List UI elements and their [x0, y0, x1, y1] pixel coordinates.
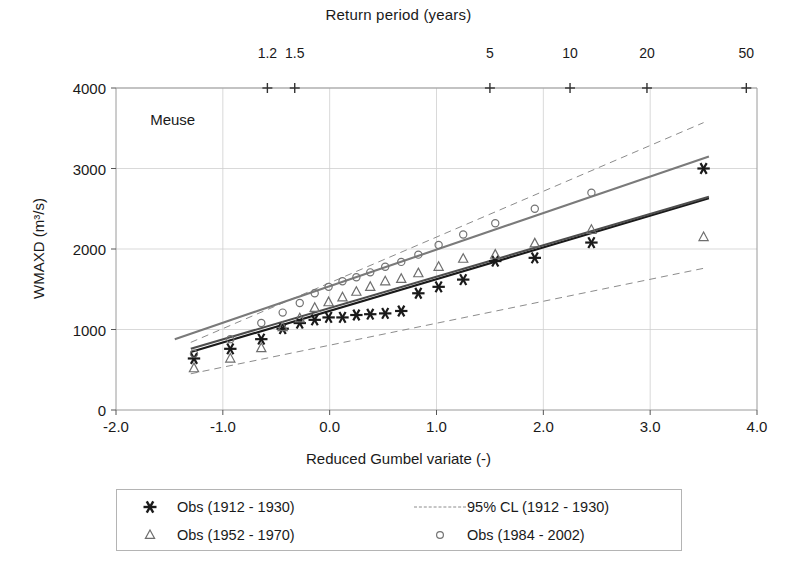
data-point-circle	[296, 299, 303, 306]
data-point-circle	[258, 319, 265, 326]
legend-label: Obs (1984 - 2002)	[467, 527, 585, 543]
legend-marker-triangle-icon	[140, 525, 160, 545]
legend-label: Obs (1912 - 1930)	[177, 499, 295, 515]
data-point-triangle	[459, 254, 468, 263]
data-point-asterisk	[457, 274, 469, 285]
data-point-triangle	[226, 353, 235, 362]
legend-triangle-icon	[123, 521, 177, 549]
data-point-triangle	[310, 303, 319, 312]
data-point-triangle	[397, 274, 406, 283]
data-point-triangle	[530, 238, 539, 247]
legend-asterisk-icon	[123, 493, 177, 521]
legend-marker-circle-icon	[430, 525, 450, 545]
data-point-asterisk	[379, 308, 391, 319]
chart-figure: Return period (years) 1.21.55102050 WMAX…	[0, 0, 797, 585]
fitted-trend-line	[191, 197, 709, 349]
legend-marker-asterisk-icon	[140, 497, 160, 517]
data-point-triangle	[338, 292, 347, 301]
data-point-asterisk	[322, 312, 334, 323]
confidence-limit-line	[191, 268, 704, 373]
legend-dashed-line-icon	[414, 507, 466, 508]
data-point-circle	[492, 220, 499, 227]
data-point-asterisk	[697, 163, 709, 174]
fitted-trend-line	[191, 198, 709, 352]
data-point-asterisk	[336, 312, 348, 323]
data-point-circle	[460, 231, 467, 238]
data-point-asterisk	[364, 309, 376, 320]
data-point-asterisk	[585, 237, 597, 248]
data-point-triangle	[189, 363, 198, 372]
legend-entry[interactable]: Obs (1912 - 1930)	[123, 493, 295, 521]
data-point-asterisk	[350, 310, 362, 321]
legend-label: 95% CL (1912 - 1930)	[467, 499, 609, 515]
data-point-asterisk	[412, 288, 424, 299]
data-point-triangle	[381, 276, 390, 285]
legend-dashed-line-icon	[413, 493, 467, 521]
data-point-triangle	[414, 268, 423, 277]
chart-legend: Obs (1912 - 1930)95% CL (1912 - 1930)Obs…	[116, 489, 682, 551]
data-point-triangle	[324, 297, 333, 306]
legend-entry[interactable]: 95% CL (1912 - 1930)	[413, 493, 609, 521]
data-point-triangle	[366, 282, 375, 291]
legend-label: Obs (1952 - 1970)	[177, 527, 295, 543]
legend-entry[interactable]: Obs (1984 - 2002)	[413, 521, 585, 549]
data-point-triangle	[699, 232, 708, 241]
data-point-triangle	[352, 287, 361, 296]
data-point-circle	[588, 189, 595, 196]
legend-circle-icon	[413, 521, 467, 549]
data-point-asterisk	[432, 281, 444, 292]
data-point-triangle	[434, 262, 443, 271]
data-point-asterisk	[529, 252, 541, 263]
data-point-asterisk	[395, 306, 407, 317]
data-point-circle	[279, 309, 286, 316]
legend-entry[interactable]: Obs (1952 - 1970)	[123, 521, 295, 549]
data-point-circle	[531, 205, 538, 212]
confidence-limit-line	[191, 123, 704, 343]
fitted-trend-line	[175, 156, 709, 339]
